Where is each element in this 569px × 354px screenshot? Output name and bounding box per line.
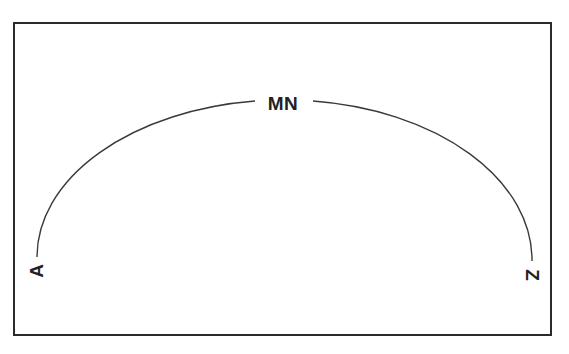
label-mn: MN	[268, 94, 299, 113]
arc-diagram	[0, 0, 569, 354]
label-z: Z	[523, 269, 542, 281]
label-a: A	[27, 264, 46, 278]
arc-right-segment	[313, 101, 532, 261]
arc-left-segment	[37, 101, 255, 257]
